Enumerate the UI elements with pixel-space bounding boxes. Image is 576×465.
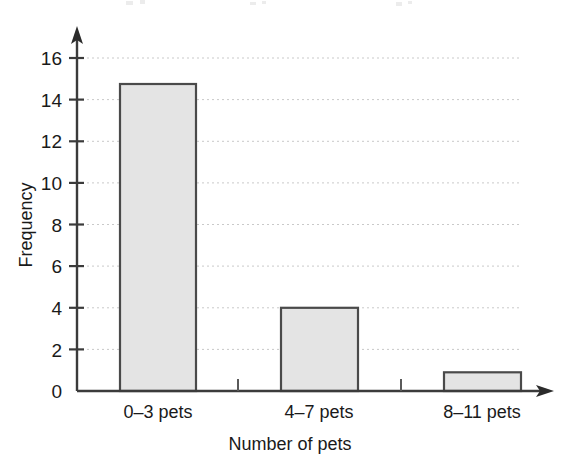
y-tick-label: 2 xyxy=(51,340,62,361)
y-tick-label: 6 xyxy=(51,256,62,277)
x-axis-title: Number of pets xyxy=(228,434,351,454)
chart-canvas: 16 14 12 10 8 6 4 2 0 0–3 pets xyxy=(0,0,576,465)
y-tick-label: 10 xyxy=(41,173,62,194)
bar-series xyxy=(120,84,521,391)
y-tick-label: 16 xyxy=(41,48,62,69)
y-axis-title: Frequency xyxy=(16,182,36,267)
y-tick-label: 12 xyxy=(41,131,62,152)
scan-artifacts xyxy=(126,0,412,6)
y-axis-tick-labels: 16 14 12 10 8 6 4 2 0 xyxy=(41,48,63,402)
category-label-0-3-pets: 0–3 pets xyxy=(123,402,192,422)
y-tick-label: 4 xyxy=(51,298,62,319)
bar-4-7-pets xyxy=(281,308,358,391)
category-label-4-7-pets: 4–7 pets xyxy=(284,402,353,422)
y-tick-label: 14 xyxy=(41,90,63,111)
histogram-figure: 16 14 12 10 8 6 4 2 0 0–3 pets xyxy=(0,0,576,465)
y-tick-label: 0 xyxy=(51,381,62,402)
y-tick-label: 8 xyxy=(51,215,62,236)
category-label-8-11-pets: 8–11 pets xyxy=(443,402,521,422)
x-axis-category-labels: 0–3 pets 4–7 pets 8–11 pets xyxy=(123,402,520,422)
bar-0-3-pets xyxy=(120,84,196,391)
bar-8-11-pets xyxy=(444,372,521,391)
